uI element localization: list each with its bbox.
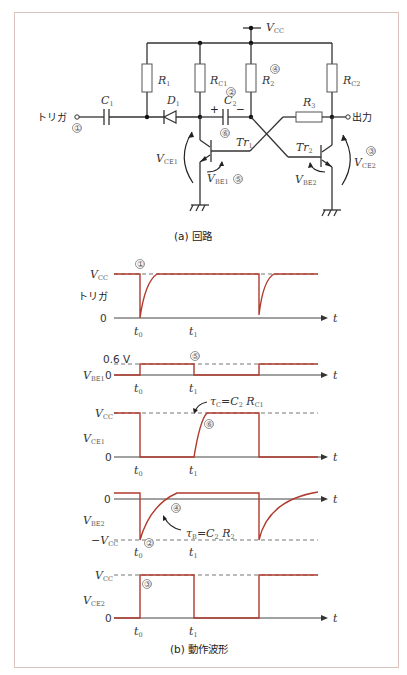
svg-text:R2: R2 [261,74,274,88]
svg-text:t1: t1 [189,546,198,560]
waveform-vce1: τC=C2 RC1 t VCC VCE1 0 ⑥ t0 t1 [83,395,338,478]
resistor-r1 [142,64,152,92]
svg-text:VCE1: VCE1 [83,432,105,446]
svg-text:t1: t1 [189,625,198,639]
svg-text:RC2: RC2 [342,74,360,88]
resistor-rc1 [195,64,205,92]
svg-text:VCE2: VCE2 [83,594,105,608]
svg-text:③: ③ [368,147,375,156]
diode-d1 [164,111,176,123]
trigger-label: トリガ [37,112,67,123]
svg-text:VBE1: VBE1 [207,172,229,186]
svg-text:t0: t0 [134,625,143,639]
svg-text:⑤: ⑤ [235,175,242,184]
svg-text:VCC: VCC [90,268,108,282]
svg-text:t: t [333,451,338,464]
circuit-caption: (a) 回路 [174,230,213,242]
svg-text:t0: t0 [134,464,143,478]
svg-text:−VCC: −VCC [91,534,118,548]
svg-text:0: 0 [104,493,111,505]
svg-text:VBE2: VBE2 [83,514,105,528]
svg-text:Tr1: Tr1 [236,136,253,150]
svg-text:t0: t0 [134,382,143,396]
svg-text:Tr2: Tr2 [296,141,313,155]
circuit-diagram: VCC R1 RC1 R2 ④ RC2 トリガ ① C1 [37,21,376,216]
figure-canvas: VCC R1 RC1 R2 ④ RC2 トリガ ① C1 [0,0,407,675]
svg-text:VBE1: VBE1 [83,369,105,383]
svg-text:⑥: ⑥ [222,129,229,138]
svg-text:t: t [333,369,338,382]
svg-text:②: ② [146,539,153,548]
svg-text:①: ① [74,124,81,133]
waveform-trigger: t VCC トリガ 0 ① t0 t1 [78,260,338,340]
resistor-rc2 [327,64,337,92]
waveform-vbe2: t 0 VBE2 −VCC ④ ② τB=C2 R2 t0 t1 [83,492,338,560]
svg-text:+: + [210,103,219,115]
svg-text:t0: t0 [134,325,143,339]
svg-text:VCE2: VCE2 [354,156,376,170]
svg-text:③: ③ [144,580,151,589]
svg-text:VCC: VCC [95,407,113,421]
svg-text:τC=C2 RC1: τC=C2 RC1 [210,395,264,409]
waveform-caption: (b) 動作波形 [170,643,229,655]
svg-text:R1: R1 [157,74,170,88]
output-label: 出力 [352,111,372,123]
svg-text:t0: t0 [134,546,143,560]
svg-text:VCE1: VCE1 [156,152,178,166]
svg-text:D1: D1 [166,94,180,108]
svg-text:RC1: RC1 [209,74,227,88]
svg-text:VCC: VCC [95,569,113,583]
svg-text:0.6 V: 0.6 V [103,353,131,365]
svg-text:τB=C2 R2: τB=C2 R2 [186,527,235,541]
svg-text:t: t [333,612,338,625]
waveform-vce2: t VCC VCE2 0 ③ t0 t1 [83,569,338,639]
svg-text:t: t [333,312,338,325]
svg-text:0: 0 [105,612,112,624]
resistor-r2 [246,64,256,92]
svg-text:−: − [236,103,245,115]
svg-text:0: 0 [105,451,112,463]
svg-text:t1: t1 [189,464,198,478]
svg-text:0: 0 [105,369,112,381]
svg-text:④: ④ [272,65,279,74]
svg-text:⑥: ⑥ [206,420,213,429]
svg-text:VBE2: VBE2 [295,173,317,187]
svg-text:C1: C1 [101,94,114,108]
svg-text:t1: t1 [189,382,198,396]
svg-text:⑤: ⑤ [192,352,199,361]
vcc-label: VCC [266,21,284,35]
svg-text:②: ② [228,88,235,97]
output-terminal [346,115,350,119]
svg-text:t1: t1 [189,325,198,339]
trigger-terminal [75,115,79,119]
svg-text:④: ④ [173,504,180,513]
resistor-r3 [296,112,322,122]
svg-text:①: ① [137,260,144,269]
waveform-vbe1: t 0.6 V VBE1 0 ⑤ t0 t1 [83,352,338,397]
svg-text:t: t [333,493,338,506]
svg-text:トリガ: トリガ [78,291,108,302]
svg-text:R3: R3 [302,96,315,110]
svg-text:0: 0 [100,312,107,324]
